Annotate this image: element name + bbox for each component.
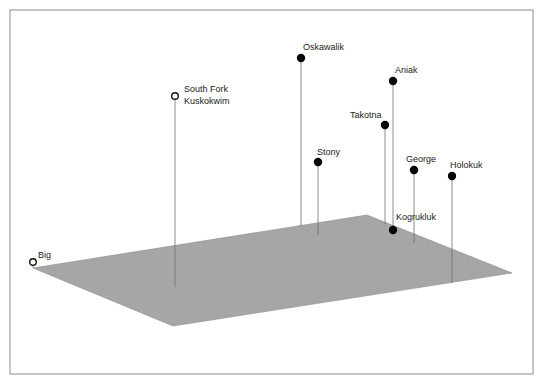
label-kogrukluk: Kogrukluk xyxy=(396,212,437,222)
label-takotna: Takotna xyxy=(350,110,382,120)
label-south-fork-kuskokwim: South Fork xyxy=(184,84,229,94)
marker-holokuk xyxy=(448,172,456,180)
label-oskawalik: Oskawalik xyxy=(303,42,345,52)
label-george: George xyxy=(406,154,436,164)
plot-frame xyxy=(10,10,533,374)
label-big: Big xyxy=(38,250,51,260)
marker-big xyxy=(30,259,37,266)
marker-aniak xyxy=(389,77,397,85)
label-holokuk: Holokuk xyxy=(450,160,483,170)
label-south-fork-kuskokwim: Kuskokwim xyxy=(184,96,230,106)
marker-kogrukluk xyxy=(389,226,397,234)
marker-south-fork-kuskokwim xyxy=(172,93,179,100)
marker-takotna xyxy=(381,121,389,129)
label-stony: Stony xyxy=(317,147,341,157)
marker-stony xyxy=(314,158,322,166)
marker-george xyxy=(410,166,418,174)
marker-oskawalik xyxy=(297,54,305,62)
label-aniak: Aniak xyxy=(395,65,418,75)
diagram-canvas: BigSouth ForkKuskokwimOskawalikAniakTako… xyxy=(0,0,542,383)
